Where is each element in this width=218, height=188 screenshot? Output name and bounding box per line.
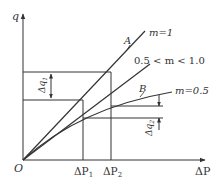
delta-q1-label: Δq1	[37, 77, 48, 94]
origin-label: O	[14, 162, 23, 175]
point-b-label: B	[138, 83, 146, 94]
flow-pressure-diagram: q ΔP O ΔP1 ΔP2 A m=1 0.5 < m < 1.0 B m=0…	[0, 0, 218, 188]
point-a-label: A	[123, 35, 131, 46]
delta-p1-label: ΔP1	[74, 165, 93, 179]
delta-p2-label: ΔP2	[103, 165, 122, 179]
y-axis-label: q	[12, 10, 19, 23]
curve-m05-label: m=0.5	[175, 85, 209, 96]
x-axis-label: ΔP	[195, 165, 211, 178]
curve-m1-label: m=1	[149, 27, 173, 38]
curve-mid-label: 0.5 < m < 1.0	[134, 55, 205, 66]
curve-m1	[23, 31, 145, 160]
delta-q2-label: Δq2	[144, 120, 155, 137]
